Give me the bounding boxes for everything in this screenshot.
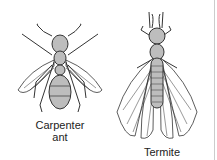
label-line: Termite <box>127 146 197 158</box>
carpenter-ant-label: Carpenter ant <box>22 119 98 143</box>
carpenter-ant-illustration <box>0 0 110 125</box>
label-line: ant <box>22 131 98 143</box>
divider-line <box>214 0 215 160</box>
termite-illustration <box>107 0 217 145</box>
label-line: Carpenter <box>22 119 98 131</box>
termite-label: Termite <box>127 146 197 158</box>
